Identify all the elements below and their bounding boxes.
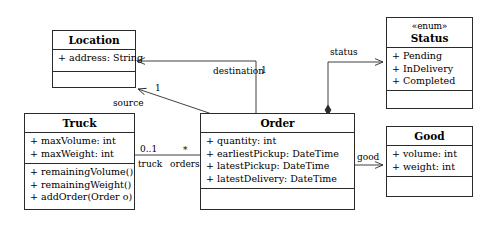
attribute-row: + volume: int (392, 148, 472, 161)
uml-class-diagram: Location + address: String Truck + maxVo… (0, 0, 482, 225)
class-name-status: Status (411, 32, 449, 44)
class-box-order[interactable]: Order + quantity: int + earliestPickup: … (200, 113, 355, 210)
attribute-row: + Completed (392, 75, 472, 88)
attribute-row: + quantity: int (206, 135, 354, 148)
operation-row: + remainingWeight() (30, 179, 134, 192)
edge-label-source-multiplicity: 1 (155, 83, 161, 93)
edge-label-orders-multiplicity: * (183, 145, 188, 155)
edge-label-truck-role: truck (138, 159, 162, 169)
attribute-row: + latestDelivery: DateTime (206, 173, 354, 186)
edge-label-destination-multiplicity: 1 (261, 65, 267, 75)
operation-row: + remainingVolume() (30, 166, 134, 179)
class-attributes-status: + Pending + InDelivery + Completed (387, 48, 472, 91)
class-title-good: Good (387, 127, 472, 146)
class-operations-order (201, 189, 354, 201)
class-name-order: Order (260, 117, 294, 129)
attribute-row: + address: String (58, 52, 135, 65)
edge-label-destination-role: destination (213, 66, 264, 76)
edge-label-truck-multiplicity: 0..1 (140, 144, 157, 154)
class-attributes-location: + address: String (53, 50, 135, 72)
connector-status (325, 62, 383, 115)
class-operations-truck: + remainingVolume() + remainingWeight() … (25, 164, 134, 207)
edge-label-good-role: good (357, 152, 379, 162)
class-box-location[interactable]: Location + address: String (52, 30, 136, 88)
edge-label-source-role: source (113, 98, 144, 108)
attribute-row: + earliestPickup: DateTime (206, 148, 354, 161)
class-name-truck: Truck (63, 117, 97, 129)
class-title-order: Order (201, 114, 354, 133)
class-operations-status (387, 91, 472, 103)
class-attributes-truck: + maxVolume: int + maxWeight: int (25, 133, 134, 164)
class-operations-location (53, 72, 135, 84)
class-name-good: Good (414, 130, 444, 142)
attribute-row: + maxWeight: int (30, 148, 134, 161)
attribute-row: + Pending (392, 50, 472, 63)
class-attributes-order: + quantity: int + earliestPickup: DateTi… (201, 133, 354, 189)
edge-label-status-role: status (330, 47, 358, 57)
class-attributes-good: + volume: int + weight: int (387, 146, 472, 177)
connector-source (138, 89, 212, 114)
stereotype-enum: «enum» (389, 21, 470, 32)
edge-label-orders-role: orders (170, 159, 200, 169)
class-box-truck[interactable]: Truck + maxVolume: int + maxWeight: int … (24, 113, 135, 210)
attribute-row: + latestPickup: DateTime (206, 160, 354, 173)
class-operations-good (387, 177, 472, 189)
class-title-location: Location (53, 31, 135, 50)
class-box-status[interactable]: «enum» Status + Pending + InDelivery + C… (386, 17, 473, 109)
attribute-row: + InDelivery (392, 63, 472, 76)
class-title-status: «enum» Status (387, 18, 472, 48)
attribute-row: + weight: int (392, 161, 472, 174)
class-name-location: Location (68, 34, 119, 46)
class-title-truck: Truck (25, 114, 134, 133)
attribute-row: + maxVolume: int (30, 135, 134, 148)
class-box-good[interactable]: Good + volume: int + weight: int (386, 126, 473, 197)
operation-row: + addOrder(Order o) (30, 191, 134, 204)
